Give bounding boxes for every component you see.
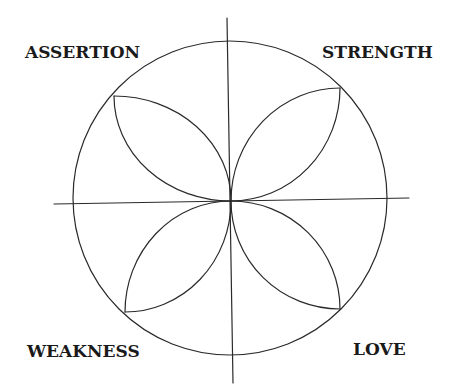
label-assertion: ASSERTION (25, 44, 140, 61)
label-love: LOVE (353, 341, 406, 358)
petal-bottom-left-outer-arc (125, 201, 231, 312)
label-strength: STRENGTH (322, 44, 433, 61)
petal-bottom-left-inner-arc (125, 201, 231, 312)
petal-top-right-inner-arc (231, 88, 340, 201)
petal-top-left-inner-arc (114, 96, 231, 201)
petal-bottom-right-outer-arc (231, 201, 340, 309)
label-weakness: WEAKNESS (27, 343, 140, 360)
petal-top-left-outer-arc (114, 96, 231, 201)
petal-bottom-right-inner-arc (231, 201, 340, 309)
petal-top-right-outer-arc (231, 88, 340, 201)
diagram-canvas: ASSERTION STRENGTH WEAKNESS LOVE (0, 0, 450, 390)
